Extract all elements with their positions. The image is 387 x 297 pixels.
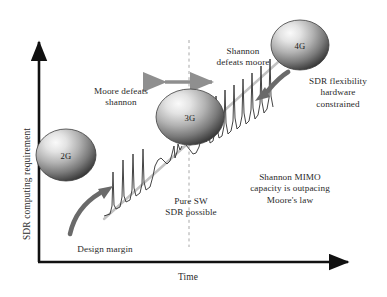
x-axis-label: Time [178, 272, 198, 282]
node-label-4g: 4G [290, 41, 310, 51]
annotation-shannon-mimo: Shannon MIMO capacity is outpacing Moore… [243, 172, 337, 206]
annotation-pure-sw-sdr: Pure SW SDR possible [160, 196, 222, 219]
annotation-moore-defeats-shannon: Moore defeats shannon [76, 86, 166, 109]
design-margin-arrow [70, 186, 113, 234]
annotation-shannon-defeats-moore: Shannon defeats moore [198, 46, 288, 69]
y-axis-label: SDR computing requirement [22, 128, 32, 240]
annotation-design-margin: Design margin [68, 244, 142, 255]
node-label-3g: 3G [180, 113, 200, 123]
diagram-canvas: 2G 3G 4G Moore defeats shannon Shannon d… [0, 0, 387, 297]
annotation-sdr-flexibility: SDR flexibility hardware constrained [292, 76, 384, 110]
node-label-2g: 2G [56, 151, 76, 161]
diagram-graphics [0, 0, 387, 297]
